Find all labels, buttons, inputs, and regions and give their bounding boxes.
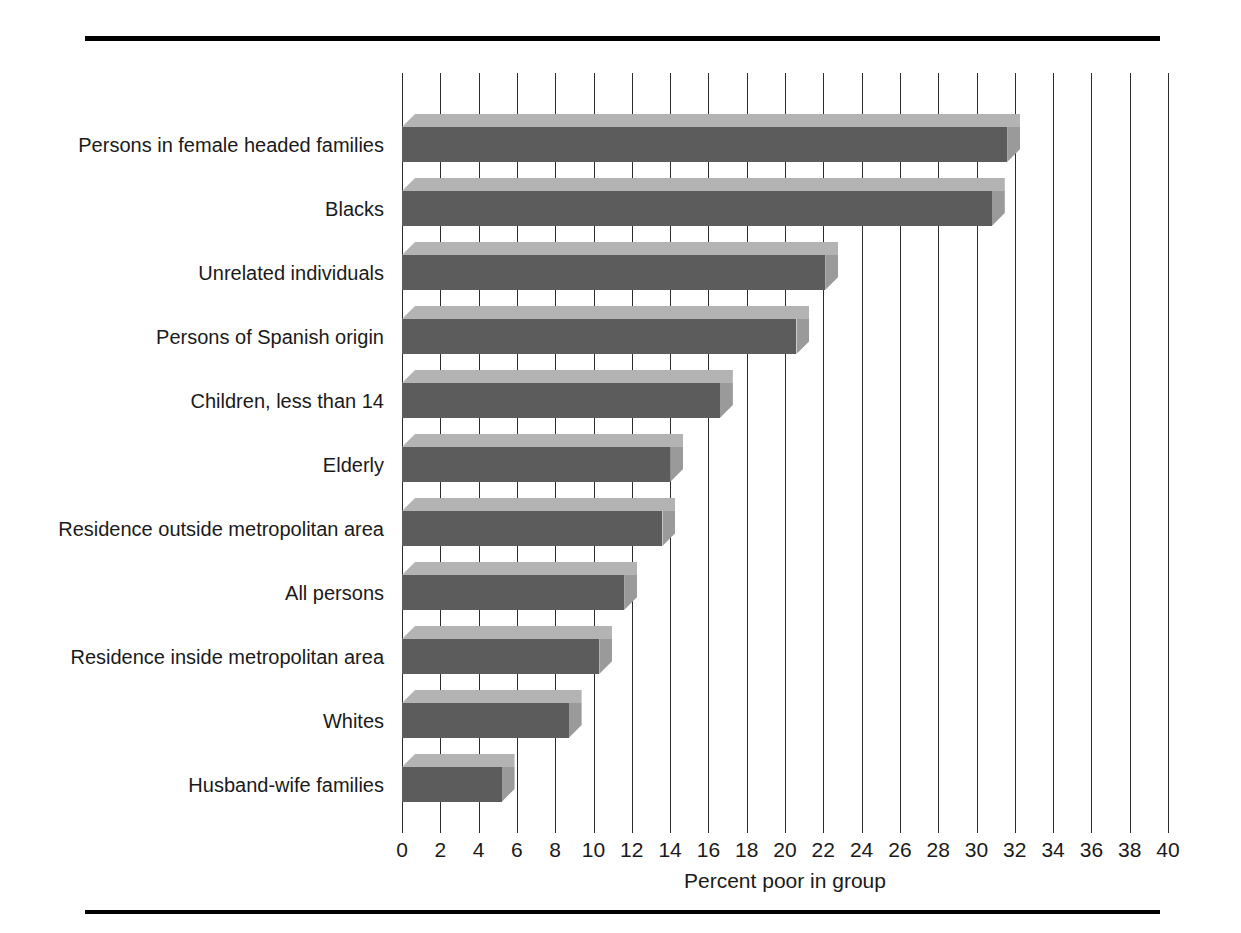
x-tick-label-12: 12 — [620, 838, 643, 862]
bar — [402, 370, 733, 418]
category-label: Residence outside metropolitan area — [24, 519, 384, 539]
bar-front-face — [402, 383, 720, 418]
bar-top-face — [402, 434, 683, 447]
bar-side-face — [992, 191, 1005, 226]
x-tick-label-14: 14 — [658, 838, 681, 862]
category-label: Unrelated individuals — [24, 263, 384, 283]
bar-top-face — [402, 562, 637, 575]
category-axis-labels: Persons in female headed familiesBlacksU… — [22, 73, 384, 818]
x-tick-label-36: 36 — [1080, 838, 1103, 862]
top-divider-rule — [85, 36, 1160, 41]
gridline-40 — [1168, 73, 1169, 833]
x-axis-title: Percent poor in group — [402, 869, 1168, 893]
bar — [402, 690, 582, 738]
bar-front-face — [402, 511, 662, 546]
bar-front-face — [402, 703, 569, 738]
bar-side-face — [599, 639, 612, 674]
x-tick-label-20: 20 — [773, 838, 796, 862]
x-tick-label-24: 24 — [850, 838, 873, 862]
bar-top-face — [402, 178, 1005, 191]
bar-front-face — [402, 127, 1007, 162]
bar-side-face — [662, 511, 675, 546]
x-tick-label-22: 22 — [812, 838, 835, 862]
x-tick-label-2: 2 — [434, 838, 446, 862]
bar-front-face — [402, 767, 502, 802]
x-tick-label-30: 30 — [965, 838, 988, 862]
x-tick-label-16: 16 — [697, 838, 720, 862]
bar-side-face — [825, 255, 838, 290]
bar-side-face — [502, 767, 515, 802]
bottom-divider-rule — [85, 910, 1160, 914]
category-label: Blacks — [24, 199, 384, 219]
category-label: Whites — [24, 711, 384, 731]
bar-side-face — [670, 447, 683, 482]
bar-front-face — [402, 639, 599, 674]
category-label: All persons — [24, 583, 384, 603]
bar — [402, 114, 1020, 162]
bar — [402, 434, 683, 482]
x-tick-label-6: 6 — [511, 838, 523, 862]
bar — [402, 242, 838, 290]
bar-side-face — [624, 575, 637, 610]
bar-side-face — [720, 383, 733, 418]
category-label: Husband-wife families — [24, 775, 384, 795]
bar-side-face — [1007, 127, 1020, 162]
bar — [402, 178, 1005, 226]
bar-top-face — [402, 114, 1020, 127]
bar-top-face — [402, 306, 809, 319]
category-label: Elderly — [24, 455, 384, 475]
category-label: Persons of Spanish origin — [24, 327, 384, 347]
category-label: Children, less than 14 — [24, 391, 384, 411]
bar-side-face — [569, 703, 582, 738]
bar-top-face — [402, 242, 838, 255]
x-axis-tick-labels: 0246810121416182022242628303234363840 — [402, 838, 1168, 866]
category-label: Residence inside metropolitan area — [24, 647, 384, 667]
bar-top-face — [402, 690, 582, 703]
poverty-bar-chart-figure: Persons in female headed familiesBlacksU… — [0, 0, 1241, 933]
x-tick-label-26: 26 — [888, 838, 911, 862]
bar-front-face — [402, 255, 825, 290]
bar — [402, 626, 612, 674]
x-tick-label-28: 28 — [927, 838, 950, 862]
x-tick-label-34: 34 — [1041, 838, 1064, 862]
bar-top-face — [402, 754, 515, 767]
x-tick-label-40: 40 — [1156, 838, 1179, 862]
bar — [402, 562, 637, 610]
x-tick-label-0: 0 — [396, 838, 408, 862]
bar-top-face — [402, 370, 733, 383]
bar — [402, 498, 675, 546]
bar-front-face — [402, 575, 624, 610]
x-tick-label-38: 38 — [1118, 838, 1141, 862]
bar-side-face — [796, 319, 809, 354]
category-label: Persons in female headed families — [24, 135, 384, 155]
bar — [402, 754, 515, 802]
x-tick-label-18: 18 — [735, 838, 758, 862]
bar-front-face — [402, 319, 796, 354]
bar — [402, 306, 809, 354]
bar-front-face — [402, 191, 992, 226]
x-tick-label-10: 10 — [582, 838, 605, 862]
bar-front-face — [402, 447, 670, 482]
bar-top-face — [402, 626, 612, 639]
x-tick-label-32: 32 — [1003, 838, 1026, 862]
x-tick-label-4: 4 — [473, 838, 485, 862]
bar-series — [402, 73, 1168, 818]
x-tick-label-8: 8 — [549, 838, 561, 862]
bar-top-face — [402, 498, 675, 511]
